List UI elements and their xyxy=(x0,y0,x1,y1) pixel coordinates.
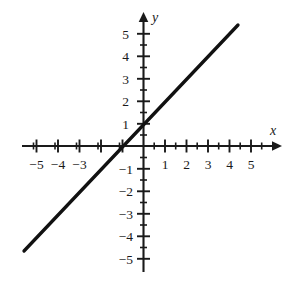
x-tick-label-3: 3 xyxy=(205,157,212,172)
y-tick-label--3: −3 xyxy=(119,207,134,222)
y-tick-label--2: −2 xyxy=(119,184,133,199)
x-tick-label-1: 1 xyxy=(162,157,169,172)
x-tick-label-4: 4 xyxy=(226,157,233,172)
x-tick-label--4: −4 xyxy=(51,157,66,172)
x-tick-label--3: −3 xyxy=(72,157,87,172)
y-tick-label-2: 2 xyxy=(122,94,129,109)
y-tick-label-1: 1 xyxy=(122,117,129,132)
graph-canvas: −5 −4 −3 1 2 3 4 5 5 4 3 2 1 −1 −2 −3 −4… xyxy=(0,0,295,289)
y-axis-arrow-icon xyxy=(139,12,149,22)
y-tick-label-5: 5 xyxy=(122,27,129,42)
y-axis-label: y xyxy=(150,10,159,25)
cartesian-line-graph: −5 −4 −3 1 2 3 4 5 5 4 3 2 1 −1 −2 −3 −4… xyxy=(0,0,295,289)
y-tick-label--5: −5 xyxy=(119,252,134,267)
y-tick-label-3: 3 xyxy=(122,72,129,87)
y-tick-label--4: −4 xyxy=(119,229,134,244)
x-axis-label: x xyxy=(269,123,277,138)
x-axis-arrow-icon xyxy=(272,141,282,151)
y-tick-label--1: −1 xyxy=(119,162,133,177)
y-tick-label-4: 4 xyxy=(122,49,129,64)
x-tick-label--5: −5 xyxy=(29,157,44,172)
x-tick-label-2: 2 xyxy=(183,157,190,172)
x-tick-label-5: 5 xyxy=(248,157,255,172)
